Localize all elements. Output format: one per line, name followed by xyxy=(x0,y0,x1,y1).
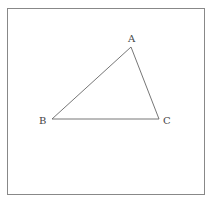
triangle-diagram: A B C xyxy=(0,0,211,202)
triangle-abc xyxy=(52,47,159,119)
diagram-frame xyxy=(8,9,205,195)
vertex-label-c: C xyxy=(163,115,171,126)
vertex-label-a: A xyxy=(127,33,136,44)
vertex-label-b: B xyxy=(39,115,46,126)
